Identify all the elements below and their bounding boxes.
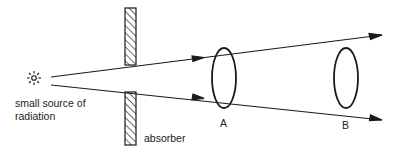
absorber-plate — [125, 8, 136, 145]
diagram-canvas — [0, 0, 395, 156]
arrow-head-icon — [370, 115, 383, 121]
surface-a-ellipse — [212, 48, 236, 108]
surface-b-ellipse — [334, 48, 358, 108]
source-label-line2: radiation — [15, 110, 86, 123]
arrow-head-icon — [369, 34, 382, 40]
radiation-diagram: small source of radiation absorber A B — [0, 0, 395, 156]
surface-a-label: A — [220, 117, 227, 130]
absorber-label: absorber — [144, 132, 185, 145]
source-label-line1: small source of — [15, 97, 86, 110]
surface-b-label: B — [342, 119, 349, 132]
arrow-head-icon — [192, 56, 204, 62]
radiation-rays — [51, 34, 382, 121]
arrow-head-icon — [192, 94, 204, 100]
radiation-source-icon — [27, 71, 41, 85]
source-label: small source of radiation — [15, 97, 86, 123]
